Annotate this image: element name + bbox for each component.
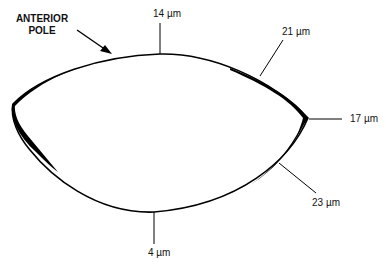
measurement-bottom-label: 4 µm bbox=[148, 248, 170, 258]
anterior-pole-label: ANTERIOR POLE bbox=[7, 13, 77, 37]
arrow-icon bbox=[77, 30, 112, 54]
anterior-pole-label-line1: ANTERIOR bbox=[7, 13, 77, 25]
lens-capsule-diagram: ANTERIOR POLE 14 µm 21 µm 17 µm 23 µm 4 … bbox=[0, 0, 386, 264]
upper-right-thick-segment bbox=[230, 68, 308, 138]
measurement-right-label: 17 µm bbox=[350, 114, 378, 124]
leader-lower-right bbox=[279, 163, 316, 193]
leader-upper-right bbox=[260, 40, 283, 76]
anterior-pole-label-line2: POLE bbox=[7, 25, 77, 37]
lower-left-thick-segment bbox=[12, 104, 58, 172]
capsule-outline-thin bbox=[12, 54, 308, 212]
anterior-thick-segment bbox=[13, 58, 120, 106]
lens-capsule-outline bbox=[0, 0, 386, 264]
measurement-lower-right-label: 23 µm bbox=[312, 198, 340, 208]
measurement-upper-right-label: 21 µm bbox=[282, 27, 310, 37]
measurement-top-label: 14 µm bbox=[153, 9, 181, 19]
